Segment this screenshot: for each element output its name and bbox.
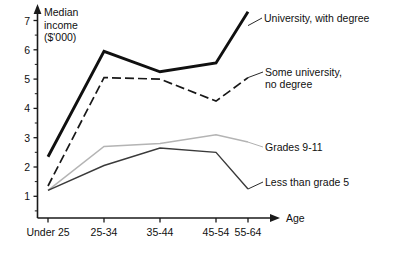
y-tick-label-7: 7 [16,15,30,27]
x-tick-label-55-64: 55-64 [218,226,278,238]
y-tick-label-4: 4 [16,102,30,114]
y-tick-label-3: 3 [16,132,30,144]
series-line-some-university-no-degree [48,78,248,186]
chart-container: Medianincome($'000) 1 2 3 4 5 6 7 Under … [0,0,399,254]
series-line-less-than-grade-5 [48,148,248,190]
y-tick-label-2: 2 [16,161,30,173]
series-label-some-university-line-2: no degree [265,78,312,90]
x-tick-label-35-44: 35-44 [130,226,190,238]
leader-line-less-than-grade-5 [248,182,263,189]
chart-title-line-2: income [44,19,78,31]
leader-line-grades [248,142,263,147]
chart-title: Medianincome($'000) [44,6,78,44]
series-label-less-than-grade-5: Less than grade 5 [265,176,349,188]
series-line-grades-9-11 [48,135,248,191]
series-label-university-with-degree: University, with degree [264,12,369,24]
y-axis [34,4,42,218]
x-axis [38,214,281,222]
leader-line-some-university [248,72,263,78]
series-label-some-university-line-1: Some university, [265,66,342,78]
x-axis-title: Age [286,212,305,224]
chart-title-line-1: Median [44,6,78,18]
series-label-grades-9-11: Grades 9-11 [265,141,323,153]
series-label-some-university-no-degree: Some university,no degree [265,66,342,91]
leader-line-university [248,18,262,26]
y-tick-label-6: 6 [16,44,30,56]
chart-title-line-3: ($'000) [44,31,76,43]
y-tick-label-5: 5 [16,73,30,85]
y-tick-label-1: 1 [16,190,30,202]
x-tick-label-25-34: 25-34 [74,226,134,238]
